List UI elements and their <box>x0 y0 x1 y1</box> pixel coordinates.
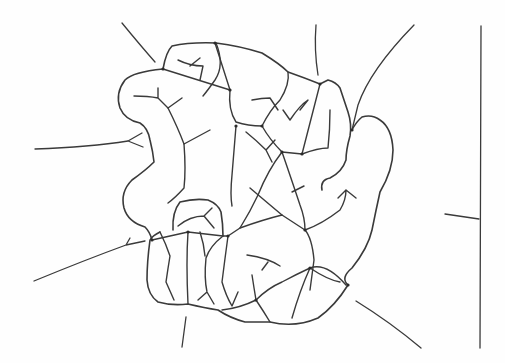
junction-dot <box>308 266 311 269</box>
inner-loop <box>173 199 223 236</box>
vertical-line <box>480 26 481 348</box>
outline-left-lobe <box>118 69 163 240</box>
junction-dot <box>280 150 283 153</box>
vein-g <box>168 144 185 203</box>
outline-bottom <box>147 232 348 324</box>
outline-top-right-lobe <box>320 80 351 190</box>
strand-top-left <box>122 23 155 62</box>
vein-o <box>283 100 308 120</box>
junction-dot <box>350 128 353 131</box>
vein-k <box>252 98 278 110</box>
strand-top-right <box>352 25 414 130</box>
vein-cc <box>247 255 280 270</box>
junction-dot <box>346 283 349 286</box>
vein-w <box>222 236 238 306</box>
junction-dot <box>234 124 237 127</box>
junction-dot <box>213 41 216 44</box>
vein-aa <box>200 232 205 256</box>
vein-i <box>246 132 275 162</box>
vein-x <box>198 236 223 304</box>
strand-top-middle <box>315 25 318 75</box>
vein-b <box>230 90 262 126</box>
junction-dot <box>186 230 189 233</box>
vein-q <box>240 215 305 230</box>
strand-lower-left <box>34 238 145 281</box>
vein-h <box>231 126 236 206</box>
network-drawing <box>0 0 505 363</box>
vein-d <box>178 58 203 80</box>
vein-s <box>305 190 356 230</box>
junction-dot <box>254 298 257 301</box>
junction-dot <box>161 67 164 70</box>
strand-bottom-right <box>356 301 421 348</box>
vein-f <box>168 108 210 144</box>
vein-y <box>187 232 188 304</box>
junction-dot <box>303 228 306 231</box>
vein-z <box>160 232 174 300</box>
vein-v <box>222 275 270 322</box>
junction-dot <box>228 88 231 91</box>
vein-u <box>256 268 310 318</box>
side-tick <box>445 214 479 219</box>
outline-right-lobe <box>345 116 393 285</box>
vein-j <box>262 72 288 126</box>
strand-left <box>35 133 143 149</box>
vein-t <box>310 267 346 285</box>
junction-dot <box>260 124 263 127</box>
junction-dot <box>226 234 229 237</box>
vein-n <box>302 110 330 154</box>
junction-dot <box>150 238 153 241</box>
junction-dot <box>300 152 303 155</box>
junction-dot <box>318 82 321 85</box>
vein-r <box>305 230 314 290</box>
inner-loop-vein <box>178 208 214 228</box>
vein-e <box>134 88 182 108</box>
figure-canvas <box>0 0 505 363</box>
strand-bottom <box>182 317 186 347</box>
